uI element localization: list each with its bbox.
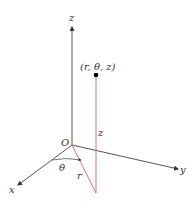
point-marker (94, 73, 99, 78)
radius-label: r (77, 170, 83, 181)
point-label: (r, θ, z) (80, 61, 116, 72)
y-axis-label: y (179, 164, 186, 175)
radius-line (72, 145, 96, 193)
x-axis-label: x (9, 184, 15, 195)
theta-arc (52, 159, 81, 161)
cylindrical-diagram: z x y O (r, θ, z) z r θ (0, 0, 194, 202)
theta-label: θ (59, 162, 65, 173)
z-axis-label: z (68, 12, 75, 23)
height-label: z (97, 127, 104, 138)
y-axis (72, 145, 178, 169)
origin-label: O (61, 137, 69, 148)
